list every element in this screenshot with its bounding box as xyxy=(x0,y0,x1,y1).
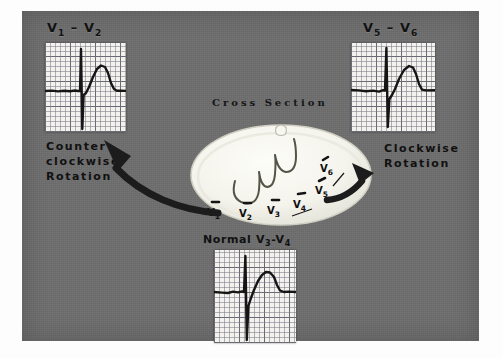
bottom-title-lead-a: V xyxy=(256,233,265,246)
bottom-title-lead-b: V xyxy=(276,233,285,246)
bottom-title-sub-b: 4 xyxy=(285,239,291,248)
normal-word: Normal xyxy=(203,233,256,246)
diagram-panel: V1 – V2 Counter clockwise Rotation V5 – … xyxy=(22,11,479,341)
bottom-ecg-title: Normal V3-V4 xyxy=(203,233,291,248)
ecg-trace-v3-v4 xyxy=(214,250,296,343)
ecg-rotation-figure: V1 – V2 Counter clockwise Rotation V5 – … xyxy=(0,0,503,359)
ecg-strip-v3-v4 xyxy=(214,250,296,343)
